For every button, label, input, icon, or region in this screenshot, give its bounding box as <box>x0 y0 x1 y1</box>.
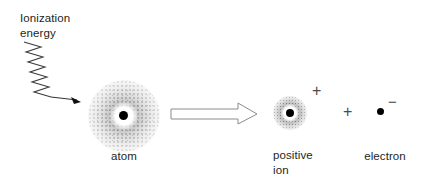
vector-artwork-layer <box>0 0 432 189</box>
block-arrow-right-icon <box>171 103 257 124</box>
zigzag-wave-arrow-icon <box>24 42 81 104</box>
ionization-diagram: Ionization energy atom + positive ion + … <box>0 0 432 189</box>
